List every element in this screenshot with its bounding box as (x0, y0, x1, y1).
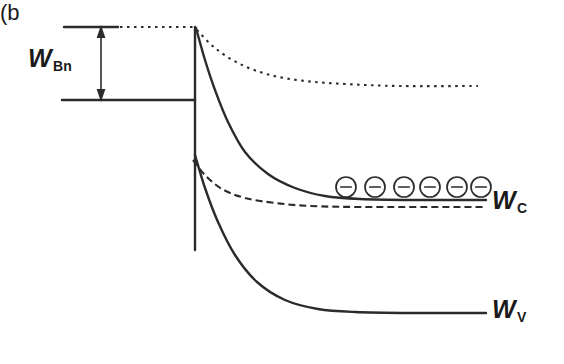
electron-circle-minus-icon (447, 177, 467, 197)
barrier-label-subscript: Bn (53, 58, 72, 74)
conduction-band-label: WC (492, 188, 527, 215)
conduction-label-symbol: W (492, 186, 516, 214)
valence-label-subscript: V (517, 309, 526, 325)
valence-label-symbol: W (492, 295, 516, 323)
conduction-label-subscript: C (517, 200, 527, 216)
electrons-group (336, 177, 491, 197)
band-diagram-figure: WBn WC WV (b (0, 0, 564, 364)
electron-circle-minus-icon (471, 177, 491, 197)
electron-circle-minus-icon (336, 177, 356, 197)
barrier-label-symbol: W (28, 44, 52, 72)
curves-group (62, 27, 486, 313)
electron-circle-minus-icon (420, 177, 440, 197)
electron-circle-minus-icon (365, 177, 385, 197)
curve-conduction-band-edge (196, 28, 486, 200)
barrier-height-label: WBn (28, 46, 72, 73)
valence-band-label: WV (492, 297, 526, 324)
curve-vacuum-level-bending-dotted (197, 30, 478, 86)
electron-circle-minus-icon (394, 177, 414, 197)
band-diagram-canvas (0, 0, 564, 364)
barrier-arrow-group (97, 25, 106, 102)
